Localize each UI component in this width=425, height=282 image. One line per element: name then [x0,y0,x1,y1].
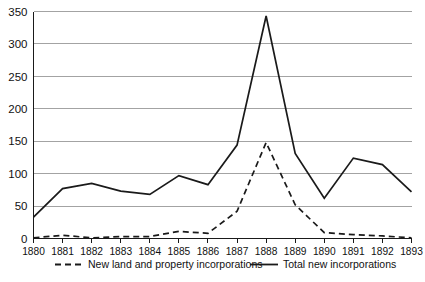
gridlines [34,12,412,207]
chart-legend: New land and property incorporationsTota… [55,258,396,270]
x-tick-label-1892: 1892 [371,246,394,257]
x-axis-tick-labels: 1880188118821883188418851886188718881889… [22,246,423,257]
x-tick-label-1882: 1882 [80,246,103,257]
x-tick-label-1893: 1893 [400,246,423,257]
x-tick-label-1887: 1887 [226,246,249,257]
y-tick-label-250: 250 [8,71,27,83]
y-tick-label-0: 0 [21,233,27,245]
x-tick-label-1891: 1891 [342,246,365,257]
x-axis-tickmarks [34,239,412,243]
x-tick-label-1881: 1881 [51,246,74,257]
y-tick-label-50: 50 [15,200,28,212]
y-tick-label-150: 150 [8,135,27,147]
x-tick-label-1890: 1890 [313,246,336,257]
axis-lines [34,12,412,239]
x-tick-label-1880: 1880 [22,246,45,257]
line-chart: 050100150200250300350 188018811882188318… [0,0,425,282]
y-tick-label-350: 350 [8,6,27,18]
x-tick-label-1888: 1888 [255,246,278,257]
legend-label-1: Total new incorporations [283,258,396,270]
x-tick-label-1883: 1883 [109,246,132,257]
legend-label-0: New land and property incorporations [88,258,263,270]
y-tick-label-100: 100 [8,168,27,180]
x-tick-label-1886: 1886 [197,246,220,257]
x-tick-label-1885: 1885 [168,246,191,257]
y-tick-label-300: 300 [8,38,27,50]
x-tick-label-1884: 1884 [138,246,161,257]
data-series [34,16,412,238]
series-line-1 [34,16,412,217]
series-line-0 [34,143,412,238]
y-axis-tick-labels: 050100150200250300350 [8,6,27,245]
x-tick-label-1889: 1889 [284,246,307,257]
y-tick-label-200: 200 [8,103,27,115]
chart-container: 050100150200250300350 188018811882188318… [0,0,425,282]
